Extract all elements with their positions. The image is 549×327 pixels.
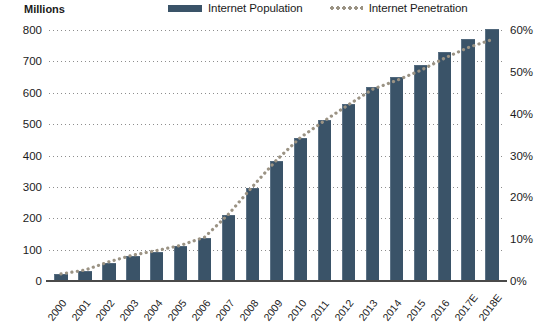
x-axis-tick-label: 2000 [45,297,69,323]
bar [294,138,307,281]
bar-slot [432,30,456,281]
x-axis-tick-label: 2002 [93,297,117,323]
dotted-line-swatch-icon [329,6,363,10]
x-axis-tick-label: 2006 [188,297,212,323]
right-axis-tick-label: 60% [510,24,546,36]
x-axis-tick-label: 2001 [69,297,93,323]
bar [126,256,139,281]
bar [461,39,474,281]
bar-slot [73,30,97,281]
bar [438,52,451,281]
x-axis-tick: 2014 [384,283,408,327]
x-axis-tick-label: 2018E [476,292,504,323]
x-axis-tick: 2018E [480,283,504,327]
x-axis-tick-label: 2003 [117,297,141,323]
x-axis-tick-label: 2008 [236,297,260,323]
x-axis-tick-label: 2015 [404,297,428,323]
left-axis-tick-label: 800 [0,24,42,36]
bar [342,104,355,281]
x-axis-tick: 2009 [265,283,289,327]
x-axis-tick-label: 2017E [452,292,480,323]
left-axis-tick-label: 0 [0,275,42,287]
legend-label-internet-penetration: Internet Penetration [369,2,468,14]
x-axis-tick: 2002 [97,283,121,327]
chart-legend: Internet Population Internet Penetration [168,2,468,14]
bar-slot [121,30,145,281]
left-axis-tick-label: 700 [0,55,42,67]
bar-slot [336,30,360,281]
x-axis-tick-label: 2005 [165,297,189,323]
bar-slot [360,30,384,281]
bar-swatch-icon [168,5,202,12]
x-axis-tick-label: 2007 [212,297,236,323]
x-axis-tick: 2006 [193,283,217,327]
bar-slot [312,30,336,281]
left-axis-tick-label: 100 [0,244,42,256]
x-axis-tick: 2001 [73,283,97,327]
x-axis-tick-label: 2016 [428,297,452,323]
bar-series-internet-population [49,30,504,281]
bar [102,263,115,282]
x-axis-tick: 2005 [169,283,193,327]
bar-slot [456,30,480,281]
x-axis-tick-label: 2014 [380,297,404,323]
bar [414,65,427,281]
x-axis-tick: 2003 [121,283,145,327]
right-axis-tick-label: 50% [510,66,546,78]
left-axis-unit-label: Millions [24,3,65,15]
bar [246,188,259,281]
right-axis-tick-label: 10% [510,233,546,245]
bar-slot [384,30,408,281]
x-axis-tick: 2000 [49,283,73,327]
left-axis-tick-label: 400 [0,150,42,162]
right-axis-tick-label: 0% [510,275,546,287]
x-axis-tick-label: 2004 [141,297,165,323]
x-axis-tick-label: 2009 [260,297,284,323]
x-axis-tick: 2017E [456,283,480,327]
left-axis-tick-label: 300 [0,181,42,193]
x-axis-tick-label: 2010 [284,297,308,323]
x-axis-labels: 2000200120022003200420052006200720082009… [49,283,504,327]
bar-slot [145,30,169,281]
x-axis-tick: 2011 [312,283,336,327]
right-axis-tick-label: 40% [510,108,546,120]
x-axis-tick: 2007 [217,283,241,327]
bar [318,120,331,281]
bar [174,246,187,281]
bar-slot [49,30,73,281]
x-axis-tick: 2010 [289,283,313,327]
bar-slot [97,30,121,281]
plot-area [49,30,504,281]
bar [150,252,163,281]
x-axis-tick-label: 2011 [308,298,331,323]
bar-slot [193,30,217,281]
right-axis-tick-label: 20% [510,191,546,203]
x-axis-tick-label: 2012 [332,297,356,323]
x-axis-tick: 2004 [145,283,169,327]
x-axis-tick: 2012 [336,283,360,327]
bar-slot [217,30,241,281]
legend-entry-internet-penetration: Internet Penetration [329,2,468,14]
left-axis-tick-label: 200 [0,212,42,224]
legend-entry-internet-population: Internet Population [168,2,303,14]
bar-slot [169,30,193,281]
left-axis-tick-label: 500 [0,118,42,130]
axis-baseline [46,280,507,282]
bar-slot [408,30,432,281]
bar [198,238,211,281]
bar [366,87,379,281]
bar [270,161,283,281]
internet-population-penetration-chart: Internet Population Internet Penetration… [0,0,549,327]
x-axis-tick: 2015 [408,283,432,327]
bar [390,77,403,281]
legend-label-internet-population: Internet Population [208,2,303,14]
bar-slot [480,30,504,281]
x-axis-tick: 2008 [241,283,265,327]
right-axis-tick-label: 30% [510,150,546,162]
bar-slot [265,30,289,281]
bar [222,215,235,281]
left-axis-tick-label: 600 [0,87,42,99]
bar [485,29,498,281]
x-axis-tick: 2016 [432,283,456,327]
x-axis-tick-label: 2013 [356,297,380,323]
